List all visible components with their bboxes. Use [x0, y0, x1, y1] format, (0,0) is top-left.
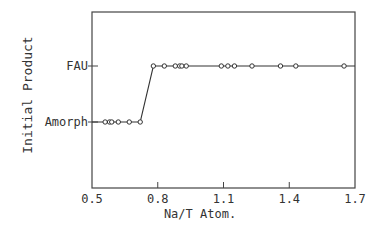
data-point: [232, 64, 236, 68]
x-tick-label: 1.4: [278, 192, 300, 206]
data-point: [184, 64, 188, 68]
data-point: [342, 64, 346, 68]
y-tick-label: Amorph: [45, 115, 88, 129]
x-tick-label: 0.8: [147, 192, 169, 206]
x-tick-label: 1.7: [344, 192, 366, 206]
data-point: [250, 64, 254, 68]
x-tick-label: 0.5: [81, 192, 103, 206]
data-point: [278, 64, 282, 68]
data-point: [116, 120, 120, 124]
plot-frame: [92, 12, 355, 188]
data-point: [294, 64, 298, 68]
data-point: [173, 64, 177, 68]
data-point: [162, 64, 166, 68]
series-line: [92, 66, 355, 122]
data-point: [219, 64, 223, 68]
y-axis-label: Initial Product: [20, 36, 35, 153]
y-tick-label: FAU: [66, 59, 88, 73]
data-point: [127, 120, 131, 124]
data-point: [180, 64, 184, 68]
data-point: [138, 120, 142, 124]
x-tick-label: 1.1: [213, 192, 235, 206]
chart: 0.50.81.11.41.7 AmorphFAU Na/T Atom. Ini…: [0, 0, 386, 225]
x-axis-label: Na/T Atom.: [164, 207, 236, 221]
data-point: [226, 64, 230, 68]
data-point: [110, 120, 114, 124]
data-point: [151, 64, 155, 68]
data-point: [103, 120, 107, 124]
